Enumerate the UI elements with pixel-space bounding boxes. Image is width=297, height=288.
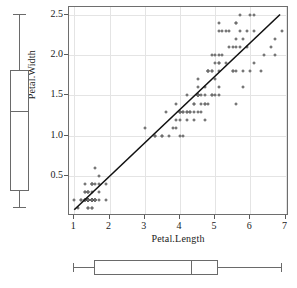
x-axis-title: Petal.Length [68, 233, 288, 244]
petal-width-boxplot [5, 6, 35, 215]
regression-line-segment [74, 15, 280, 210]
regression-line [69, 7, 287, 214]
x-axis-tick-label: 6 [239, 221, 259, 231]
x-axis-tick-label: 2 [99, 221, 119, 231]
y-axis-tick-mark [64, 54, 68, 55]
plot-panel [68, 6, 288, 215]
x-axis-tick-label: 7 [275, 221, 295, 231]
x-axis-tick-label: 5 [204, 221, 224, 231]
x-axis-tick-mark [214, 215, 215, 219]
petal-length-boxplot [68, 256, 288, 278]
median-line-vertical [10, 111, 29, 112]
whisker-cap-left [73, 263, 74, 272]
median-line-horizontal [191, 260, 192, 275]
box-iqr-horizontal [94, 260, 217, 275]
whisker-cap-lower [13, 207, 26, 208]
x-axis-tick-mark [73, 215, 74, 219]
y-axis-tick-mark [64, 135, 68, 136]
scatter-plot-figure: 0.51.01.52.02.5 1234567 Petal.Width Peta… [0, 0, 297, 232]
whisker-cap-right [281, 263, 282, 272]
y-axis-tick-mark [64, 94, 68, 95]
x-axis-tick-mark [109, 215, 110, 219]
box-iqr-vertical [10, 70, 29, 191]
x-axis-tick-label: 4 [169, 221, 189, 231]
x-axis-tick-label: 1 [63, 221, 83, 231]
x-axis-tick-label: 3 [134, 221, 154, 231]
x-axis-tick-mark [179, 215, 180, 219]
y-axis-tick-mark [64, 14, 68, 15]
x-axis-tick-mark [249, 215, 250, 219]
x-axis-tick-mark [285, 215, 286, 219]
x-axis-tick-mark [144, 215, 145, 219]
whisker-cap-upper [13, 14, 26, 15]
y-axis-tick-mark [64, 175, 68, 176]
